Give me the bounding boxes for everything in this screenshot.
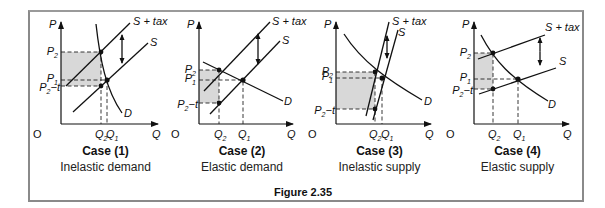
- supply-curve: [373, 30, 398, 120]
- case-subtitle: Inelastic supply: [338, 160, 420, 174]
- producer-price-point: [373, 107, 378, 112]
- origin-label: O: [171, 128, 180, 140]
- origin-label: O: [446, 128, 455, 140]
- quantity-axis-label: Q: [563, 128, 572, 140]
- demand-label: D: [284, 95, 292, 107]
- price-axis-label: P: [462, 18, 470, 30]
- original-equilibrium-point: [240, 77, 245, 82]
- origin-label: O: [308, 128, 317, 140]
- demand-label: D: [548, 98, 556, 110]
- demand-label: D: [124, 107, 132, 119]
- figure-2-35: PQOP2P1P2−tQ2Q1S + taxSDCase (1)Inelasti…: [0, 0, 605, 208]
- q2-label: Q2: [214, 128, 227, 142]
- case-subtitle: Elastic supply: [481, 160, 554, 174]
- case-title: Case (2): [219, 144, 266, 158]
- supply-label: S: [150, 36, 158, 48]
- case-1-panel: PQOP2P1P2−tQ2Q1S + taxSDCase (1)Inelasti…: [33, 15, 168, 174]
- q1-label: Q1: [106, 128, 119, 142]
- q1-label: Q1: [381, 128, 394, 142]
- demand-label: D: [424, 95, 432, 107]
- new-equilibrium-point: [491, 51, 496, 56]
- case-subtitle: Inelastic demand: [60, 160, 151, 174]
- p2-label: P2: [47, 45, 58, 59]
- p2-minus-t-label: P2−t: [177, 98, 199, 112]
- new-equilibrium-point: [217, 68, 222, 73]
- case-title: Case (4): [494, 144, 541, 158]
- original-equilibrium-point: [379, 75, 384, 80]
- case-title: Case (1): [82, 144, 129, 158]
- new-equilibrium-point: [99, 50, 104, 55]
- producer-price-point: [99, 84, 104, 89]
- q2-label: Q2: [369, 128, 382, 142]
- original-equilibrium-point: [104, 77, 109, 82]
- supply-tax-label: S + tax: [545, 21, 580, 33]
- new-equilibrium-point: [373, 70, 378, 75]
- supply-label: S: [282, 34, 290, 46]
- p2-label: P2: [460, 46, 471, 60]
- supply-label: S: [398, 26, 406, 38]
- q1-label: Q1: [513, 128, 526, 142]
- supply-tax-label: S + tax: [272, 15, 307, 27]
- p2-minus-t-label: P2−t: [452, 84, 474, 98]
- price-axis-label: P: [49, 18, 57, 30]
- p1-label: P1: [460, 71, 471, 85]
- supply-label: S: [559, 55, 567, 67]
- quantity-axis-label: Q: [287, 128, 296, 140]
- case-title: Case (3): [356, 144, 403, 158]
- q1-label: Q1: [238, 128, 251, 142]
- figure-caption: Figure 2.35: [274, 186, 332, 198]
- supply-tax-curve: [204, 22, 270, 91]
- tax-revenue-area: [474, 53, 493, 89]
- producer-price-point: [491, 87, 496, 92]
- original-equilibrium-point: [515, 76, 520, 81]
- producer-price-point: [217, 101, 222, 106]
- quantity-axis-label: Q: [425, 128, 434, 140]
- q2-label: Q2: [488, 128, 501, 142]
- case-subtitle: Elastic demand: [201, 160, 283, 174]
- case-2-panel: PQOP2P1P2−tQ2Q1S + taxSDCase (2)Elastic …: [171, 15, 307, 174]
- case-3-panel: PQOP2P1P2−tQ2Q1S + taxSDCase (3)Inelasti…: [308, 15, 434, 174]
- supply-tax-label: S + tax: [133, 15, 168, 27]
- p2-minus-t-label: P2−t: [39, 81, 61, 95]
- case-4-panel: PQOP2P1P2−tQ2Q1S + taxSDCase (4)Elastic …: [446, 18, 580, 174]
- price-axis-label: P: [187, 18, 195, 30]
- price-axis-label: P: [324, 18, 332, 30]
- p2-minus-t-label: P2−t: [314, 104, 336, 118]
- origin-label: O: [33, 128, 42, 140]
- quantity-axis-label: Q: [152, 128, 161, 140]
